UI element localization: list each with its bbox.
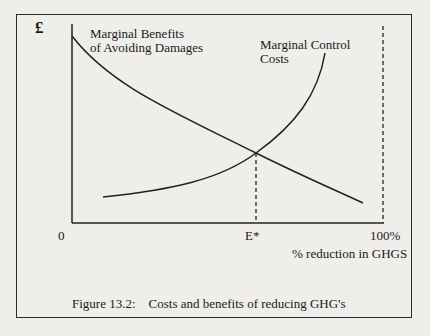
equilibrium-label: E* [245, 228, 259, 243]
diagram-canvas [0, 0, 430, 336]
max-label: 100% [370, 228, 400, 243]
marginal-benefits-curve [72, 36, 363, 203]
y-axis-label: £ [35, 20, 44, 35]
mcc-label-line1: Marginal Control [260, 37, 350, 52]
origin-label: 0 [58, 228, 65, 243]
x-axis-label: % reduction in GHGS [292, 246, 407, 261]
mb-label-line2: of Avoiding Damages [90, 40, 203, 55]
marginal-control-costs-curve [103, 53, 325, 197]
mb-label-line1: Marginal Benefits [90, 26, 184, 41]
mcc-label-line2: Costs [260, 51, 289, 66]
figure-caption: Figure 13.2: Costs and benefits of reduc… [72, 296, 346, 311]
